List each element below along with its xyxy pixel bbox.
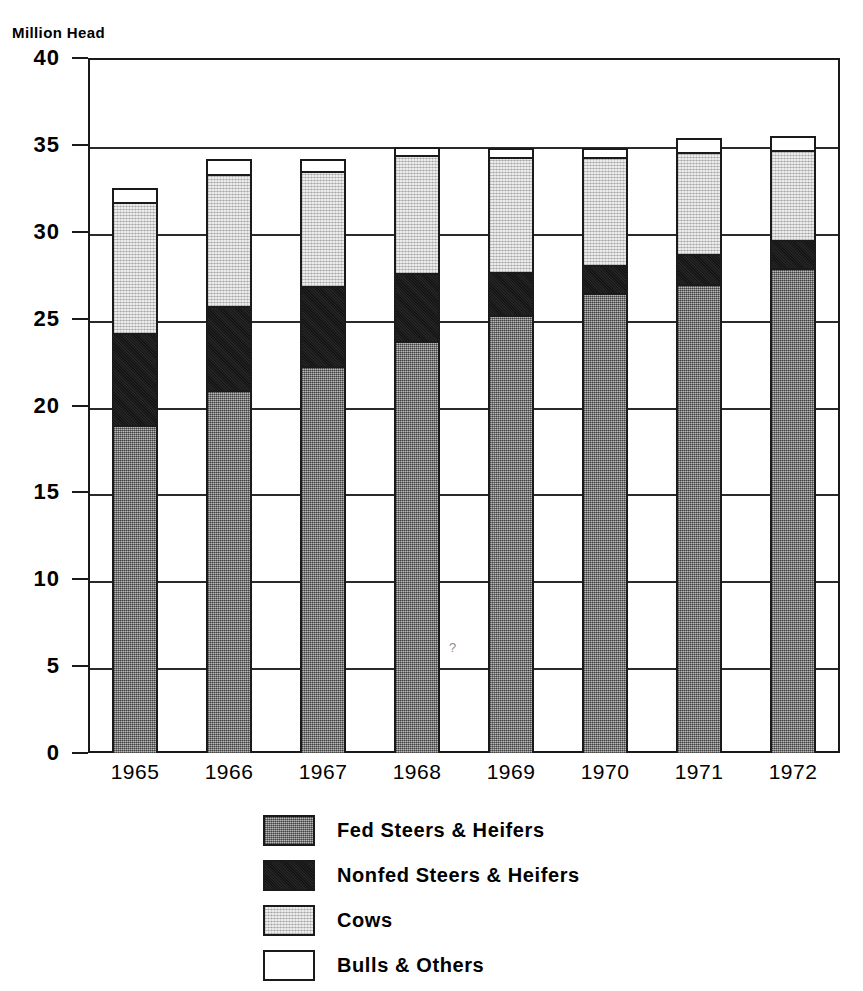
bar-segment[interactable] xyxy=(488,148,534,157)
y-tick-label: 35 xyxy=(34,132,60,158)
y-tick-label: 25 xyxy=(34,306,60,332)
bar-segment[interactable] xyxy=(582,265,628,293)
x-tick-label: 1966 xyxy=(205,760,254,784)
bar-segment[interactable] xyxy=(206,306,252,389)
y-tick-label: 30 xyxy=(34,219,60,245)
y-axis-ticks: 0510152025303540 xyxy=(0,0,88,991)
legend-swatch xyxy=(263,815,315,846)
y-tick-label: 10 xyxy=(34,566,60,592)
y-tick-mark xyxy=(72,318,88,320)
bar-segment[interactable] xyxy=(770,240,816,268)
bar-segment[interactable] xyxy=(488,272,534,315)
bar-group[interactable] xyxy=(394,58,440,753)
y-tick-mark xyxy=(72,144,88,146)
legend-item[interactable]: Cows xyxy=(263,898,783,943)
bar-segment[interactable] xyxy=(676,138,722,152)
bar-group[interactable] xyxy=(488,58,534,753)
bar-segment[interactable] xyxy=(582,148,628,157)
x-tick-label: 1972 xyxy=(769,760,818,784)
y-tick-label: 15 xyxy=(34,479,60,505)
bar-segment[interactable] xyxy=(300,159,346,171)
bar-segment[interactable] xyxy=(676,284,722,753)
y-tick-mark xyxy=(72,231,88,233)
bar-segment[interactable] xyxy=(676,254,722,284)
bar-segment[interactable] xyxy=(206,159,252,175)
bar-segment[interactable] xyxy=(112,425,158,753)
legend-label: Cows xyxy=(337,909,393,932)
bar-segment[interactable] xyxy=(300,286,346,366)
bar-segment[interactable] xyxy=(112,202,158,332)
y-tick-label: 0 xyxy=(47,740,60,766)
bar-group[interactable] xyxy=(676,58,722,753)
y-tick-label: 20 xyxy=(34,393,60,419)
y-tick-mark xyxy=(72,57,88,59)
bar-segment[interactable] xyxy=(676,152,722,255)
bar-group[interactable] xyxy=(770,58,816,753)
y-tick-mark xyxy=(72,405,88,407)
bar-segment[interactable] xyxy=(770,268,816,753)
bar-group[interactable] xyxy=(206,58,252,753)
legend-label: Bulls & Others xyxy=(337,954,484,977)
y-tick-mark xyxy=(72,491,88,493)
legend-swatch xyxy=(263,905,315,936)
bar-segment[interactable] xyxy=(300,171,346,286)
bar-segment[interactable] xyxy=(206,390,252,753)
x-tick-label: 1970 xyxy=(581,760,630,784)
legend-swatch xyxy=(263,860,315,891)
bar-segment[interactable] xyxy=(300,366,346,753)
bar-segment[interactable] xyxy=(770,136,816,150)
bar-segment[interactable] xyxy=(582,293,628,753)
bars-layer xyxy=(88,58,840,753)
x-tick-label: 1971 xyxy=(675,760,724,784)
bar-segment[interactable] xyxy=(488,315,534,753)
x-tick-label: 1968 xyxy=(393,760,442,784)
bar-group[interactable] xyxy=(582,58,628,753)
bar-segment[interactable] xyxy=(394,155,440,273)
bar-segment[interactable] xyxy=(112,333,158,425)
bar-segment[interactable] xyxy=(770,150,816,240)
bar-segment[interactable] xyxy=(206,174,252,306)
bar-segment[interactable] xyxy=(582,157,628,265)
y-tick-label: 5 xyxy=(47,653,60,679)
y-tick-mark xyxy=(72,578,88,580)
legend-label: Fed Steers & Heifers xyxy=(337,819,545,842)
y-tick-mark xyxy=(72,665,88,667)
legend-swatch xyxy=(263,950,315,981)
y-tick-label: 40 xyxy=(34,45,60,71)
legend-item[interactable]: Nonfed Steers & Heifers xyxy=(263,853,783,898)
bar-segment[interactable] xyxy=(488,157,534,272)
x-tick-label: 1969 xyxy=(487,760,536,784)
stray-question-mark-artifact: ? xyxy=(449,640,456,655)
x-tick-label: 1965 xyxy=(111,760,160,784)
y-tick-mark xyxy=(72,752,88,754)
bar-segment[interactable] xyxy=(112,188,158,202)
x-tick-label: 1967 xyxy=(299,760,348,784)
bar-segment[interactable] xyxy=(394,147,440,156)
legend-item[interactable]: Bulls & Others xyxy=(263,943,783,988)
bar-segment[interactable] xyxy=(394,273,440,341)
legend-label: Nonfed Steers & Heifers xyxy=(337,864,580,887)
legend-item[interactable]: Fed Steers & Heifers xyxy=(263,808,783,853)
chart-root: Million Head 0510152025303540 1965196619… xyxy=(0,0,863,991)
chart-legend: Fed Steers & HeifersNonfed Steers & Heif… xyxy=(263,808,783,988)
bar-segment[interactable] xyxy=(394,341,440,753)
bar-group[interactable] xyxy=(300,58,346,753)
bar-group[interactable] xyxy=(112,58,158,753)
